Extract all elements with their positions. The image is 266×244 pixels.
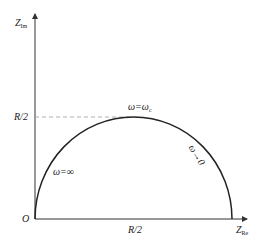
left-branch-annotation: ω=∞: [53, 167, 74, 177]
apex-annotation: ω=ωc: [128, 102, 152, 113]
y-axis-label-subscript: Im: [21, 23, 28, 29]
origin-label: O: [22, 214, 29, 224]
apex-annotation-subscript: c: [149, 107, 152, 113]
x-axis-label-subscript: Re: [242, 230, 249, 236]
x-axis-label: ZRe: [236, 225, 248, 236]
x-tick-label: R/2: [128, 225, 142, 235]
diagram-canvas: [0, 0, 266, 244]
y-tick-label: R/2: [14, 112, 28, 122]
y-axis-label: ZIm: [15, 18, 27, 29]
